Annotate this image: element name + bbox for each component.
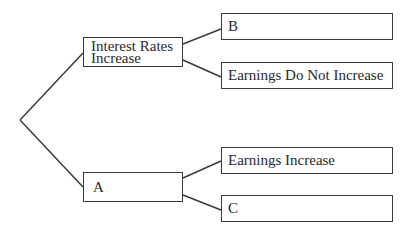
edge-interest-rates-to-b: [183, 29, 221, 44]
node-b-label: B: [228, 20, 238, 33]
edge-a-to-earnings-increase: [183, 161, 221, 178]
node-b: B: [221, 13, 393, 40]
node-earnings-increase: Earnings Increase: [221, 147, 393, 174]
edge-a-to-c: [183, 195, 221, 210]
node-c-label: C: [228, 202, 238, 215]
edge-root-to-interest-rates: [20, 53, 83, 120]
node-earnings-do-not-increase-label: Earnings Do Not Increase: [228, 69, 383, 82]
node-a: A: [83, 172, 183, 202]
edge-root-to-a: [20, 120, 83, 187]
edge-interest-rates-to-earnings-do-not-increase: [183, 60, 221, 77]
node-earnings-increase-label: Earnings Increase: [228, 154, 335, 167]
node-earnings-do-not-increase: Earnings Do Not Increase: [221, 62, 393, 89]
node-c: C: [221, 195, 393, 222]
node-a-label: A: [93, 181, 104, 194]
node-interest-rates-increase: Interest Rates Increase: [83, 37, 183, 67]
decision-tree-diagram: Interest Rates Increase A B Earnings Do …: [0, 0, 413, 232]
